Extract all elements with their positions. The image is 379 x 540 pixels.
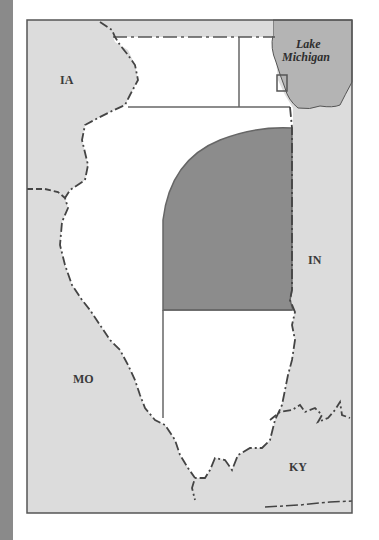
label-kentucky: KY bbox=[289, 460, 307, 474]
illinois-region-map: IA MO IN KY Lake Michigan bbox=[0, 0, 379, 540]
label-michigan: Michigan bbox=[281, 50, 330, 64]
label-iowa: IA bbox=[60, 73, 74, 87]
label-indiana: IN bbox=[308, 253, 322, 267]
wisconsin-land bbox=[113, 20, 273, 36]
label-lake: Lake bbox=[295, 37, 321, 51]
label-missouri: MO bbox=[73, 372, 94, 386]
